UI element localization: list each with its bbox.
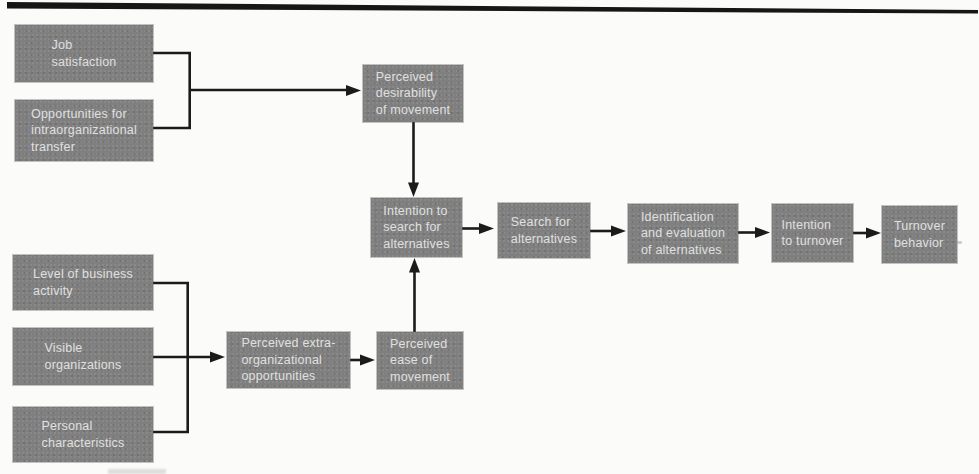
node-label: Perceived desirability of movement [372, 67, 454, 121]
node-label: Personal characteristics [38, 416, 129, 453]
arrowhead-right-icon [346, 85, 361, 96]
node-opportunities-transfer: Opportunities for intraorganizational tr… [15, 100, 153, 161]
node-intention-turnover: Intention to turnover [772, 204, 853, 262]
node-label: Job satisfaction [48, 35, 121, 72]
arrowhead-right-icon [210, 352, 225, 363]
scan-speck [956, 241, 962, 244]
connector-bottom-bracket [152, 282, 212, 434]
node-label: Intention to turnover [778, 215, 848, 252]
node-label: Perceived ease of movement [386, 334, 454, 388]
arrowhead-up-icon [409, 258, 420, 273]
node-identification-evaluation: Identification and evaluation of alterna… [628, 204, 738, 263]
node-label: Turnover behavior [890, 216, 949, 253]
node-label: Search for alternatives [507, 212, 581, 249]
arrowhead-right-icon [755, 227, 770, 238]
top-horizontal-rule [0, 0, 979, 20]
node-perceived-desirability: Perceived desirability of movement [363, 65, 463, 122]
node-level-business: Level of business activity [13, 255, 153, 310]
arrowhead-right-icon [479, 223, 494, 234]
node-label: Visible organizations [41, 338, 126, 375]
arrowhead-right-icon [360, 355, 375, 366]
node-intention-search: Intention to search for alternatives [371, 198, 462, 257]
node-turnover-behavior: Turnover behavior [882, 206, 957, 263]
node-label: Identification and evaluation of alterna… [637, 207, 729, 261]
connector-top-bracket [152, 52, 347, 130]
node-label: Perceived extra- organizational opportun… [237, 333, 339, 387]
node-search-alternatives: Search for alternatives [498, 203, 590, 258]
node-label: Opportunities for intraorganizational tr… [27, 104, 141, 158]
node-visible-organizations: Visible organizations [13, 328, 153, 385]
node-label: Level of business activity [29, 264, 137, 301]
node-label: Intention to search for alternatives [379, 201, 453, 255]
scanned-figure-page: Job satisfaction Opportunities for intra… [0, 0, 979, 474]
arrowhead-down-icon [408, 183, 419, 198]
arrowhead-right-icon [866, 228, 881, 239]
node-perceived-extra: Perceived extra- organizational opportun… [227, 332, 350, 388]
arrowhead-right-icon [611, 226, 626, 237]
cut-off-caption-fragment [108, 469, 166, 474]
node-job-satisfaction: Job satisfaction [15, 25, 153, 82]
node-perceived-ease: Perceived ease of movement [377, 332, 463, 389]
node-personal-characteristics: Personal characteristics [13, 407, 153, 462]
